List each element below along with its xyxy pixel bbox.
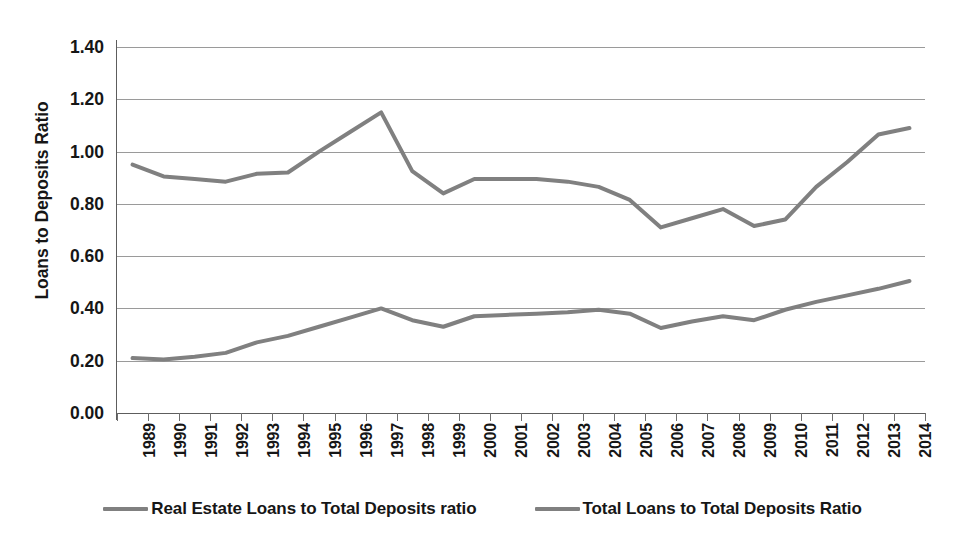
x-axis-tick — [676, 413, 677, 421]
x-axis-tick-label: 2013 — [886, 423, 904, 485]
x-axis-tick-label: 2009 — [762, 423, 780, 485]
x-axis-tick-label: 1993 — [265, 423, 283, 485]
x-axis-tick-label: 1998 — [420, 423, 438, 485]
x-axis-tick — [739, 413, 740, 421]
legend-label: Real Estate Loans to Total Deposits rati… — [151, 499, 476, 519]
x-axis-tick — [832, 413, 833, 421]
x-axis-tick-label: 2002 — [545, 423, 563, 485]
x-axis-tick — [117, 413, 118, 421]
chart-legend: Real Estate Loans to Total Deposits rati… — [0, 494, 965, 524]
legend-line-swatch — [535, 507, 580, 511]
x-axis-tick — [894, 413, 895, 421]
x-axis-tick — [863, 413, 864, 421]
x-axis-tick-label: 1995 — [327, 423, 345, 485]
x-axis-tick-labels: 1989199019911992199319941995199619971998… — [117, 421, 926, 483]
y-axis-tick-label: 0.40 — [22, 298, 104, 319]
x-axis-tick-label: 1997 — [389, 423, 407, 485]
x-axis-tick-label: 2007 — [700, 423, 718, 485]
x-axis-tick — [521, 413, 522, 421]
x-axis-tick-label: 1991 — [203, 423, 221, 485]
x-axis-tick — [148, 413, 149, 421]
legend-entry[interactable]: Total Loans to Total Deposits Ratio — [535, 499, 862, 519]
x-axis-tick — [428, 413, 429, 421]
x-axis-tick — [925, 413, 926, 421]
legend-line-swatch — [103, 507, 148, 511]
x-axis-tick — [397, 413, 398, 421]
x-axis-tick-label: 2000 — [482, 423, 500, 485]
x-axis-tick — [614, 413, 615, 421]
x-axis-tick-label: 1992 — [234, 423, 252, 485]
x-axis-tick-label: 2008 — [731, 423, 749, 485]
x-axis-tick-label: 2004 — [607, 423, 625, 485]
y-axis-tick-label: 0.20 — [22, 350, 104, 371]
legend-label: Total Loans to Total Deposits Ratio — [583, 499, 862, 519]
x-axis-tick — [645, 413, 646, 421]
legend-entry[interactable]: Real Estate Loans to Total Deposits rati… — [103, 499, 476, 519]
x-axis-tick-label: 2006 — [669, 423, 687, 485]
x-axis-tick — [241, 413, 242, 421]
series-lines — [117, 47, 925, 413]
x-axis-tick-label: 2012 — [855, 423, 873, 485]
x-axis-tick-label: 1996 — [358, 423, 376, 485]
y-axis-tick-label: 1.40 — [22, 37, 104, 58]
x-axis-tick — [272, 413, 273, 421]
y-axis-tick-label: 0.60 — [22, 246, 104, 267]
x-axis-ticks — [117, 413, 926, 421]
x-axis-tick — [459, 413, 460, 421]
y-axis-tick-label: 1.20 — [22, 89, 104, 110]
x-axis-tick — [552, 413, 553, 421]
x-axis-tick — [303, 413, 304, 421]
x-axis-tick-label: 2005 — [638, 423, 656, 485]
x-axis-tick-label: 1989 — [141, 423, 159, 485]
series-line — [133, 112, 910, 227]
x-axis-tick — [335, 413, 336, 421]
x-axis-tick — [210, 413, 211, 421]
x-axis-tick-label: 2014 — [917, 423, 935, 485]
x-axis-tick-label: 1994 — [296, 423, 314, 485]
series-line — [133, 281, 910, 359]
x-axis-tick — [801, 413, 802, 421]
y-axis-tick-labels: 1.401.201.000.800.600.400.200.00 — [22, 0, 104, 543]
x-axis-tick — [179, 413, 180, 421]
x-axis-tick-label: 2001 — [513, 423, 531, 485]
x-axis-tick — [770, 413, 771, 421]
y-axis-tick-label: 0.00 — [22, 403, 104, 424]
y-axis-tick-label: 1.00 — [22, 141, 104, 162]
x-axis-tick — [583, 413, 584, 421]
x-axis-tick-label: 1990 — [172, 423, 190, 485]
x-axis-tick-label: 2010 — [793, 423, 811, 485]
y-axis-tick-label: 0.80 — [22, 193, 104, 214]
x-axis-tick-label: 2011 — [824, 423, 842, 485]
x-axis-tick — [366, 413, 367, 421]
line-chart: Loans to Deposits Ratio 1.401.201.000.80… — [0, 0, 965, 543]
x-axis-tick-label: 2003 — [576, 423, 594, 485]
plot-area — [117, 47, 925, 413]
x-axis-tick-label: 1999 — [451, 423, 469, 485]
x-axis-tick — [707, 413, 708, 421]
x-axis-tick — [490, 413, 491, 421]
